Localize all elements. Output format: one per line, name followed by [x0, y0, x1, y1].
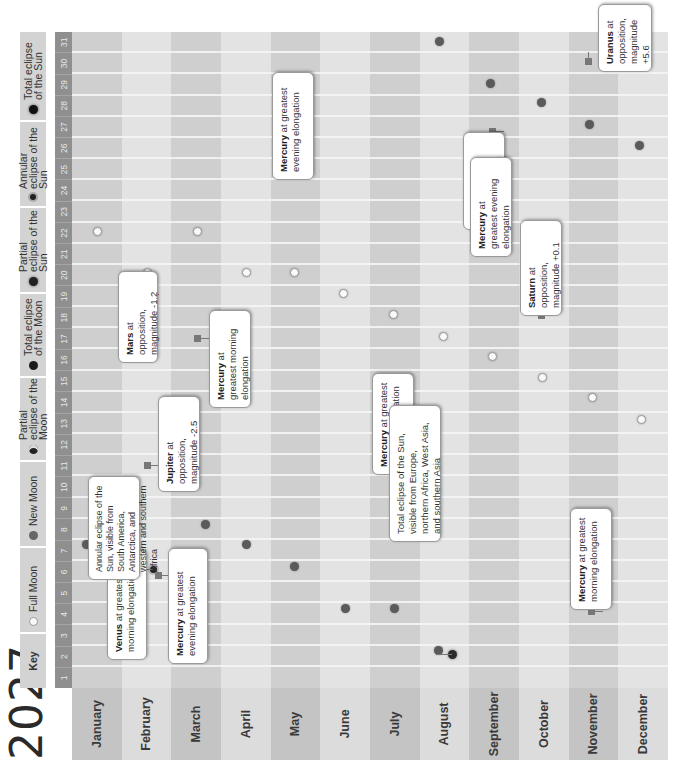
callout-bold: Mars — [124, 333, 135, 355]
day-label: 28 — [55, 95, 72, 116]
gridline — [72, 645, 668, 647]
day-label: 18 — [55, 307, 72, 328]
gridline — [72, 666, 668, 668]
day-label: 21 — [55, 243, 72, 264]
connector — [436, 654, 452, 655]
gridline — [72, 200, 668, 202]
day-label: 30 — [55, 52, 72, 73]
callout-bold: Mercury — [174, 619, 185, 656]
gridline — [72, 264, 668, 266]
day-label: 4 — [55, 603, 72, 624]
legend-annular-solar-eclipse: Annular eclipse of the Sun — [20, 120, 46, 206]
total-solar-eclipse-icon — [29, 105, 38, 114]
legend-new-moon: New Moon — [20, 460, 46, 546]
event-marker — [155, 573, 162, 580]
gridline — [72, 391, 668, 393]
callout-mercury-morning-mar: Mercury at greatest morning elongation — [209, 310, 251, 408]
day-label: 3 — [55, 624, 72, 645]
month-row — [370, 32, 420, 688]
astronomy-calendar-2027: 2027 Key Full Moon New Moon Partial ecli… — [0, 0, 686, 770]
day-label: 23 — [55, 201, 72, 222]
day-label: 24 — [55, 180, 72, 201]
legend-partial-lunar-eclipse: Partial eclipse of the Moon — [20, 376, 46, 460]
callout-text: Total eclipse of the Sun, visible from E… — [395, 422, 442, 534]
callout-annular-eclipse: Annular eclipse of the Sun, visible from… — [88, 476, 140, 580]
day-label: 10 — [55, 476, 72, 497]
day-label: 8 — [55, 519, 72, 540]
day-label: 15 — [55, 370, 72, 391]
day-label: 12 — [55, 434, 72, 455]
day-label: 9 — [55, 497, 72, 518]
legend-label: Total eclipse of the Moon — [23, 294, 43, 356]
callout-mercury-evening-may: Mercury at greatest evening elongation — [272, 72, 314, 180]
legend-title: Key — [20, 632, 46, 688]
day-label: 13 — [55, 413, 72, 434]
gridline — [72, 222, 668, 224]
day-label: 5 — [55, 582, 72, 603]
callout-mercury-evening-sep: Mercury at greatest evening elongation — [470, 157, 512, 257]
month-label: May — [271, 688, 321, 760]
connector — [158, 575, 168, 576]
gridline — [72, 327, 668, 329]
month-row — [618, 32, 668, 688]
month-label: June — [320, 688, 370, 760]
legend: Key Full Moon New Moon Partial eclipse o… — [20, 32, 46, 688]
month-label: July — [370, 688, 420, 760]
event-marker — [144, 463, 151, 470]
day-label: 7 — [55, 540, 72, 561]
gridline — [72, 116, 668, 118]
gridline — [72, 497, 668, 499]
callout-saturn-opposition: Saturn at opposition, magnitude +0.1 — [520, 220, 562, 316]
month-label: March — [171, 688, 221, 760]
callout-bold: Mercury — [215, 363, 226, 400]
callout-bold: Saturn — [526, 278, 537, 308]
day-label: 16 — [55, 349, 72, 370]
legend-label: Partial eclipse of the Moon — [18, 378, 48, 440]
callout-jupiter-opposition: Jupiter at opposition, magnitude -2.5 — [158, 396, 200, 492]
connector — [197, 338, 209, 339]
callout-bold: Mercury — [278, 135, 289, 172]
legend-label: Full Moon — [28, 566, 38, 612]
full-moon-icon — [29, 617, 38, 626]
day-label: 26 — [55, 137, 72, 158]
gridline — [72, 179, 668, 181]
legend-total-lunar-eclipse: Total eclipse of the Moon — [20, 292, 46, 376]
connector — [588, 52, 589, 62]
gridline — [72, 73, 668, 75]
annular-solar-eclipse-icon — [30, 194, 36, 200]
day-label: 31 — [55, 32, 72, 52]
callout-bold: Jupiter — [164, 452, 175, 484]
new-moon-icon — [29, 531, 38, 540]
month-row — [519, 32, 569, 688]
callout-bold: Mercury — [476, 212, 487, 249]
legend-partial-solar-eclipse: Partial eclipse of the Sun — [20, 206, 46, 292]
partial-lunar-eclipse-icon — [29, 445, 38, 454]
gridline — [72, 370, 668, 372]
gridline — [72, 285, 668, 287]
month-row — [320, 32, 370, 688]
callout-bold: Mercury — [576, 565, 587, 602]
gridline — [72, 348, 668, 350]
gridline — [72, 95, 668, 97]
callout-uranus-opposition: Uranus at opposition, magnitude +5.6 — [598, 4, 652, 72]
month-label: November — [569, 688, 619, 760]
legend-label: Total eclipse of the Sun — [23, 32, 43, 100]
month-label: August — [420, 688, 470, 760]
month-label: October — [519, 688, 569, 760]
callout-bold: Uranus — [604, 31, 615, 64]
legend-label: Partial eclipse of the Sun — [18, 208, 48, 272]
day-label: 20 — [55, 264, 72, 285]
event-marker — [194, 336, 201, 343]
callout-mercury-morning-nov: Mercury at greatest morning elongation — [570, 508, 612, 610]
callout-bold: Mercury — [378, 430, 389, 467]
month-row — [420, 32, 470, 688]
legend-full-moon: Full Moon — [20, 546, 46, 632]
legend-total-solar-eclipse: Total eclipse of the Sun — [20, 32, 46, 120]
month-label: September — [469, 688, 519, 760]
callout-mars-opposition: Mars at opposition, magnitude -1.2 — [118, 271, 158, 363]
callout-mercury-evening-feb: Mercury at greatest evening elongation — [168, 548, 208, 664]
month-label: February — [122, 688, 172, 760]
day-header: 1 2 3 4 5 6 7 8 9 10 11 12 13 14 15 16 1… — [55, 32, 72, 688]
day-label: 2 — [55, 646, 72, 667]
gridline — [72, 306, 668, 308]
